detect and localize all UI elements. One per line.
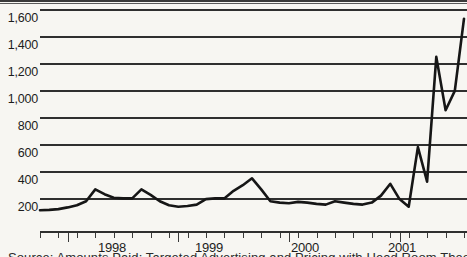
x-tick-minor xyxy=(280,233,281,238)
x-tick-minor xyxy=(353,233,354,238)
gridline-1400 xyxy=(40,36,467,38)
x-tick-minor xyxy=(317,233,318,238)
plot-area xyxy=(40,0,467,232)
x-tick-minor xyxy=(390,233,391,238)
x-tick-minor xyxy=(114,233,115,238)
y-tick-label-400: 400 xyxy=(0,174,38,187)
x-tick-minor xyxy=(169,233,170,238)
source-note: Source: Amounts Paid: Targeted Advertisi… xyxy=(8,250,467,257)
gridline-1200 xyxy=(40,63,467,65)
x-tick-minor xyxy=(206,233,207,238)
x-tick-minor xyxy=(298,233,299,238)
x-tick-minor xyxy=(427,233,428,238)
gridline-200 xyxy=(40,198,467,200)
x-tick-minor xyxy=(188,233,189,238)
x-tick-minor xyxy=(335,233,336,238)
gridline-1600 xyxy=(40,9,467,11)
x-tick-minor xyxy=(58,233,59,238)
x-tick-minor xyxy=(151,233,152,238)
x-tick-minor xyxy=(261,233,262,238)
x-tick-minor xyxy=(132,233,133,238)
x-tick-minor xyxy=(77,233,78,238)
gridline-600 xyxy=(40,144,467,146)
y-tick-label-600: 600 xyxy=(0,147,38,160)
gridline-1000 xyxy=(40,90,467,92)
y-axis-labels: 1,600 1,400 1,200 1,000 800 600 400 200 xyxy=(0,0,38,232)
y-tick-label-1400: 1,400 xyxy=(0,39,38,52)
x-tick-minor xyxy=(243,233,244,238)
y-tick-label-1200: 1,200 xyxy=(0,66,38,79)
gridline-800 xyxy=(40,117,467,119)
x-tick-minor xyxy=(224,233,225,238)
y-tick-label-1600: 1,600 xyxy=(0,12,38,25)
y-tick-label-1000: 1,000 xyxy=(0,93,38,106)
x-tick-minor xyxy=(372,233,373,238)
x-tick-minor xyxy=(446,233,447,238)
gridline-400 xyxy=(40,171,467,173)
y-tick-label-800: 800 xyxy=(0,120,38,133)
x-tick-minor xyxy=(464,233,465,238)
x-axis-baseline xyxy=(40,231,467,233)
x-tick-minor xyxy=(95,233,96,238)
x-tick-minor xyxy=(40,233,41,238)
x-tick-minor xyxy=(409,233,410,238)
y-tick-label-200: 200 xyxy=(0,201,38,214)
line-chart: 1,600 1,400 1,200 1,000 800 600 400 200 … xyxy=(0,0,467,257)
